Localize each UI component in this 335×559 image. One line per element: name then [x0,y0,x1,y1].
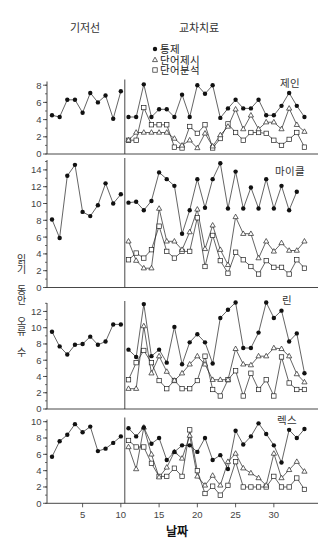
data-point-square [180,474,184,478]
data-point-triangle [126,444,131,449]
data-point-circle [241,106,245,110]
data-point-square [203,264,207,268]
data-point-circle [233,169,237,173]
data-point-triangle [256,475,261,480]
y-tick-label: 12 [31,306,42,317]
data-point-circle [126,115,130,119]
series-line [52,91,121,119]
data-point-square [226,271,230,275]
data-point-circle [188,340,192,344]
data-point-square [272,474,276,478]
data-point-square [256,387,260,391]
data-point-circle [50,217,54,221]
data-point-circle [65,352,69,356]
data-point-circle [287,428,291,432]
data-point-circle [88,91,92,95]
data-point-circle [88,424,92,428]
data-point-circle [203,92,207,96]
data-point-circle [80,111,84,115]
data-point-square [287,272,291,276]
data-point-square [233,459,237,463]
treatment-phase-label: 교차치료 [179,22,219,35]
data-point-circle [295,190,299,194]
data-point-circle [96,100,100,104]
data-point-triangle [187,433,192,438]
panel-rex: 024681051015202530 [31,416,318,520]
panel-michael: 02468101214 [31,158,318,293]
data-point-triangle [294,459,299,464]
data-point-circle [195,450,199,454]
y-tick-label: 10 [31,416,42,427]
series-line [129,326,305,389]
data-point-circle [134,434,138,438]
baseline-phase-label: 기저선 [70,22,100,35]
data-point-square [157,378,161,382]
y-tick-label: 12 [31,181,42,192]
data-point-square [172,145,176,149]
y-tick-label: 4 [36,114,41,125]
y-tick-label: 0 [36,498,41,509]
data-point-square [134,251,138,255]
data-point-circle [287,339,291,343]
data-point-circle [134,200,138,204]
y-tick-label: 6 [36,449,41,460]
data-point-triangle [225,262,230,267]
x-tick-label: 5 [80,509,85,520]
data-point-circle [111,441,115,445]
data-point-circle [264,177,268,181]
data-point-triangle [279,240,284,245]
data-point-circle [264,432,268,436]
plot-area: 0246802468101214024681012024681051015202… [31,80,318,521]
data-point-circle [210,458,214,462]
data-point-circle [103,339,107,343]
data-point-square [195,131,199,135]
data-point-circle [180,443,184,447]
data-point-circle [142,425,146,429]
data-point-circle [88,214,92,218]
data-point-circle [272,206,276,210]
data-point-square [302,145,306,149]
x-tick-label: 30 [269,509,280,520]
data-point-circle [57,344,61,348]
data-point-circle [264,113,268,117]
y-tick-label: 2 [36,265,41,276]
data-point-circle [249,185,253,189]
data-point-square [256,485,260,489]
data-point-triangle [187,229,192,234]
data-point-square [302,266,306,270]
open-triangle-icon [153,57,158,61]
data-point-triangle [202,246,207,251]
data-point-triangle [218,247,223,252]
data-point-circle [210,361,214,365]
data-point-square [249,130,253,134]
data-point-square [210,484,214,488]
data-point-triangle [134,466,139,471]
data-point-square [272,138,276,142]
data-point-square [157,224,161,228]
data-point-triangle [256,353,261,358]
data-point-circle [57,236,61,240]
data-point-circle [210,83,214,87]
data-point-circle [241,442,245,446]
data-point-circle [295,331,299,335]
data-point-square [272,265,276,269]
data-point-circle [287,208,291,212]
data-point-square [126,438,130,442]
data-point-circle [65,433,69,437]
data-point-circle [165,107,169,111]
data-point-triangle [287,106,292,111]
data-point-square [203,123,207,127]
y-tick-label: 4 [36,465,41,476]
data-point-circle [65,174,69,178]
data-point-circle [119,89,123,93]
data-point-square [295,476,299,480]
data-point-square [287,485,291,489]
data-point-circle [73,422,77,426]
data-point-circle [249,346,253,350]
data-point-circle [302,371,306,375]
filled-circle-icon [153,47,157,51]
series-line [129,303,305,374]
legend-label: 단어분석 [160,64,200,76]
panel-title-jane: 제인 [280,77,300,89]
panel-title-michael: 마이클 [275,165,305,177]
